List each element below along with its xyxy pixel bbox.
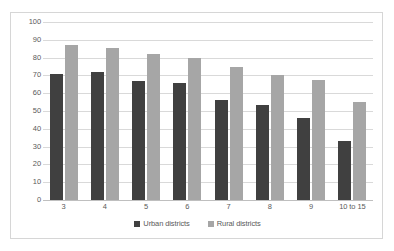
y-axis-tick-label: 70: [15, 71, 41, 79]
bar-group: [338, 22, 366, 200]
y-axis-tick-label: 90: [15, 36, 41, 44]
legend-swatch-icon: [208, 221, 214, 227]
legend-swatch-icon: [134, 221, 140, 227]
bar-rural-districts[interactable]: [353, 102, 366, 200]
gridline-0: [43, 200, 373, 201]
bar-urban-districts[interactable]: [297, 118, 310, 200]
bar-urban-districts[interactable]: [338, 141, 351, 200]
bar-group: [215, 22, 243, 200]
legend-label: Rural districts: [217, 220, 261, 228]
chart-container: 1009080706050403020100 345678910 to 15 U…: [10, 12, 383, 239]
bar-rural-districts[interactable]: [230, 67, 243, 201]
legend-label: Urban districts: [143, 220, 189, 228]
x-axis-tick-label: 10 to 15: [332, 202, 373, 212]
bar-group: [173, 22, 201, 200]
x-axis-tick-label: 9: [291, 202, 332, 212]
bar-group: [297, 22, 325, 200]
bar-group: [132, 22, 160, 200]
legend-item[interactable]: Rural districts: [208, 220, 261, 228]
bar-urban-districts[interactable]: [215, 100, 228, 200]
bar-group: [256, 22, 284, 200]
bar-urban-districts[interactable]: [50, 74, 63, 200]
y-axis-tick-label: 50: [15, 107, 41, 115]
chart-legend: Urban districtsRural districts: [11, 220, 384, 228]
y-axis-tick-label: 0: [15, 196, 41, 204]
x-axis-tick-label: 7: [208, 202, 249, 212]
y-axis: 1009080706050403020100: [11, 22, 41, 200]
x-axis: 345678910 to 15: [43, 202, 373, 216]
bar-group: [50, 22, 78, 200]
x-axis-tick-label: 6: [167, 202, 208, 212]
bar-urban-districts[interactable]: [173, 83, 186, 200]
bar-urban-districts[interactable]: [91, 72, 104, 200]
legend-item[interactable]: Urban districts: [134, 220, 189, 228]
x-axis-tick-label: 8: [249, 202, 290, 212]
y-axis-tick-label: 100: [15, 18, 41, 26]
bar-rural-districts[interactable]: [188, 58, 201, 200]
y-axis-tick-label: 20: [15, 160, 41, 168]
bar-rural-districts[interactable]: [271, 75, 284, 200]
y-axis-tick-label: 30: [15, 143, 41, 151]
bar-group: [91, 22, 119, 200]
bar-urban-districts[interactable]: [256, 105, 269, 200]
bar-rural-districts[interactable]: [147, 54, 160, 200]
x-axis-tick-label: 5: [126, 202, 167, 212]
bar-rural-districts[interactable]: [106, 48, 119, 200]
x-axis-tick-label: 3: [43, 202, 84, 212]
bar-rural-districts[interactable]: [65, 45, 78, 200]
y-axis-tick-label: 80: [15, 54, 41, 62]
bar-rural-districts[interactable]: [312, 80, 325, 200]
y-axis-tick-label: 10: [15, 178, 41, 186]
y-axis-tick-label: 60: [15, 89, 41, 97]
chart-plot-area: [43, 22, 373, 200]
x-axis-tick-label: 4: [84, 202, 125, 212]
bar-urban-districts[interactable]: [132, 81, 145, 200]
y-axis-tick-label: 40: [15, 125, 41, 133]
